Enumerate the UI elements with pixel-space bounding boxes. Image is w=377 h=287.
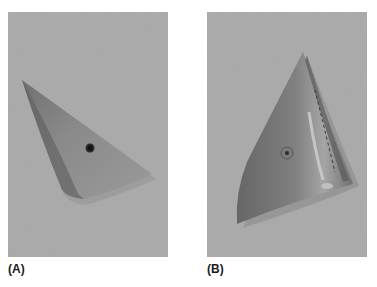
photo-panel-a <box>8 12 168 257</box>
panel-label-a: (A) <box>8 262 25 276</box>
panel-label-b: (B) <box>207 262 224 276</box>
triangular-part-a-image <box>8 12 168 257</box>
curved-shell-part-b-image <box>207 12 367 257</box>
photo-panel-b <box>207 12 367 257</box>
